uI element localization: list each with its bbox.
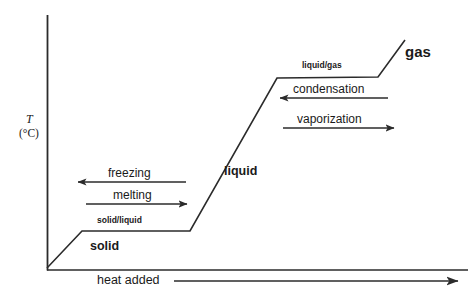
y-axis-symbol-label: T (26, 113, 33, 125)
phase-label-gas: gas (405, 44, 431, 59)
phase-label-solid: solid (90, 240, 119, 253)
process-label-vaporization: vaporization (297, 113, 362, 125)
diagram-canvas (0, 0, 470, 301)
process-label-melting: melting (113, 189, 152, 201)
heating-curve-line (47, 40, 405, 268)
y-axis-unit-label: (°C) (19, 128, 39, 140)
plateau-label-solid-liquid: solid/liquid (97, 216, 142, 225)
process-label-freezing: freezing (108, 167, 151, 179)
plateau-label-liquid-gas: liquid/gas (302, 61, 342, 70)
x-axis-label: heat added (97, 274, 160, 287)
phase-label-liquid: liquid (224, 165, 257, 178)
process-label-condensation: condensation (293, 83, 364, 95)
heating-curve-diagram: T (°C) heat added solid liquid gas solid… (0, 0, 470, 301)
